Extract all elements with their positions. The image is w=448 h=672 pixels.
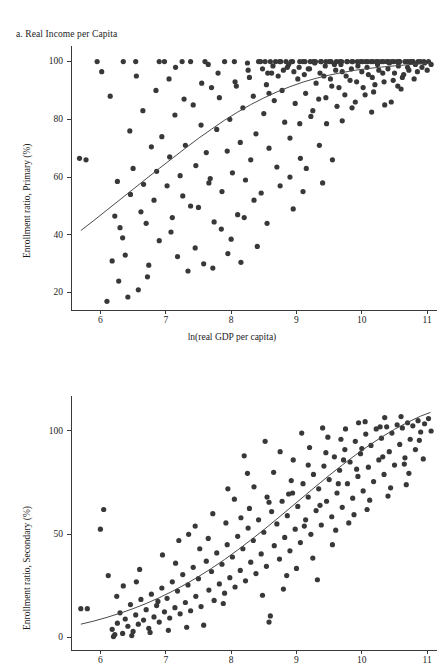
data-point: [378, 424, 383, 429]
data-point: [245, 471, 250, 476]
data-point: [328, 76, 333, 81]
data-point: [384, 424, 389, 429]
data-point: [101, 507, 106, 512]
data-point: [371, 479, 376, 484]
data-point: [302, 523, 307, 528]
data-point: [315, 577, 320, 582]
data-point: [136, 622, 141, 627]
data-point: [170, 215, 175, 220]
data-point: [295, 504, 300, 509]
data-point: [285, 513, 290, 518]
data-point: [134, 579, 139, 584]
data-point: [188, 608, 193, 613]
data-point: [180, 193, 185, 198]
data-point: [336, 481, 341, 486]
data-point: [304, 166, 309, 171]
data-point: [272, 98, 277, 103]
data-point: [282, 120, 287, 125]
data-point: [380, 71, 385, 76]
data-point: [343, 426, 348, 431]
data-point: [157, 238, 162, 243]
data-point: [325, 435, 330, 440]
data-point: [151, 198, 156, 203]
panel-a-x-axis-label: ln(real GDP per capita): [122, 332, 342, 342]
data-point: [278, 59, 283, 64]
data-point: [269, 509, 274, 514]
data-point: [201, 261, 206, 266]
data-point: [338, 62, 343, 67]
data-point: [127, 128, 132, 133]
data-point: [234, 84, 239, 89]
data-point: [334, 490, 339, 495]
data-point: [117, 225, 122, 230]
data-point: [291, 69, 296, 74]
data-point: [199, 81, 204, 86]
data-point: [321, 464, 326, 469]
data-point: [418, 429, 423, 434]
data-point: [138, 209, 143, 214]
data-point: [302, 59, 307, 64]
data-point: [272, 543, 277, 548]
data-point: [173, 561, 178, 566]
data-point: [114, 594, 119, 599]
data-point: [178, 173, 183, 178]
data-point: [253, 131, 258, 136]
data-point: [302, 72, 307, 77]
data-point: [344, 73, 349, 78]
data-point: [353, 99, 358, 104]
data-point: [125, 624, 130, 629]
data-point: [173, 65, 178, 70]
data-point: [313, 508, 318, 513]
data-point: [115, 621, 120, 626]
data-point: [263, 59, 268, 64]
x-tick-label: 11: [423, 655, 432, 665]
data-point: [329, 59, 334, 64]
data-point: [176, 538, 181, 543]
data-point: [329, 514, 334, 519]
data-point: [153, 88, 158, 93]
data-point: [298, 156, 303, 161]
data-point: [214, 127, 219, 132]
data-point: [336, 85, 341, 90]
data-point: [110, 258, 115, 263]
data-point: [271, 470, 276, 475]
data-point: [422, 421, 427, 426]
data-point: [160, 552, 165, 557]
data-point: [186, 532, 191, 537]
data-point: [121, 59, 126, 64]
data-point: [300, 189, 305, 194]
data-point: [212, 598, 217, 603]
data-point: [366, 465, 371, 470]
data-point: [367, 498, 372, 503]
data-point: [229, 237, 234, 242]
y-tick-label: 40: [54, 230, 64, 240]
data-point: [204, 150, 209, 155]
data-point: [340, 505, 345, 510]
data-point: [180, 59, 185, 64]
data-point: [222, 591, 227, 596]
data-point: [415, 418, 420, 423]
data-point: [372, 82, 377, 87]
data-point: [245, 60, 250, 65]
data-point: [299, 430, 304, 435]
data-point: [310, 108, 315, 113]
data-point: [212, 219, 217, 224]
data-point: [381, 79, 386, 84]
data-point: [425, 68, 430, 73]
data-point: [157, 59, 162, 64]
data-point: [406, 68, 411, 73]
data-point: [157, 620, 162, 625]
data-point: [369, 110, 374, 115]
data-point: [208, 176, 213, 181]
data-point: [196, 205, 201, 210]
data-point: [219, 227, 224, 232]
data-point: [223, 520, 228, 525]
panel-b-plot-area: 05010067891011: [0, 380, 448, 672]
data-point: [342, 92, 347, 97]
data-point: [133, 612, 138, 617]
x-tick-label: 7: [163, 655, 168, 665]
data-point: [340, 118, 345, 123]
data-point: [388, 485, 393, 490]
data-point: [235, 212, 240, 217]
data-point: [312, 60, 317, 65]
